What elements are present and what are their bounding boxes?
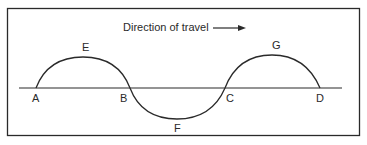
point-label-d: D [316,92,324,104]
point-label-f: F [174,122,181,134]
point-label-b: B [120,92,127,104]
wave-curve [36,55,320,119]
point-label-g: G [272,39,281,51]
point-label-e: E [82,41,89,53]
direction-arrow-right-icon [213,25,246,31]
direction-of-travel-title: Direction of travel [123,21,209,33]
wave-diagram: Direction of travel A B C D E F G [0,0,367,145]
point-label-a: A [32,92,40,104]
point-label-c: C [226,92,234,104]
